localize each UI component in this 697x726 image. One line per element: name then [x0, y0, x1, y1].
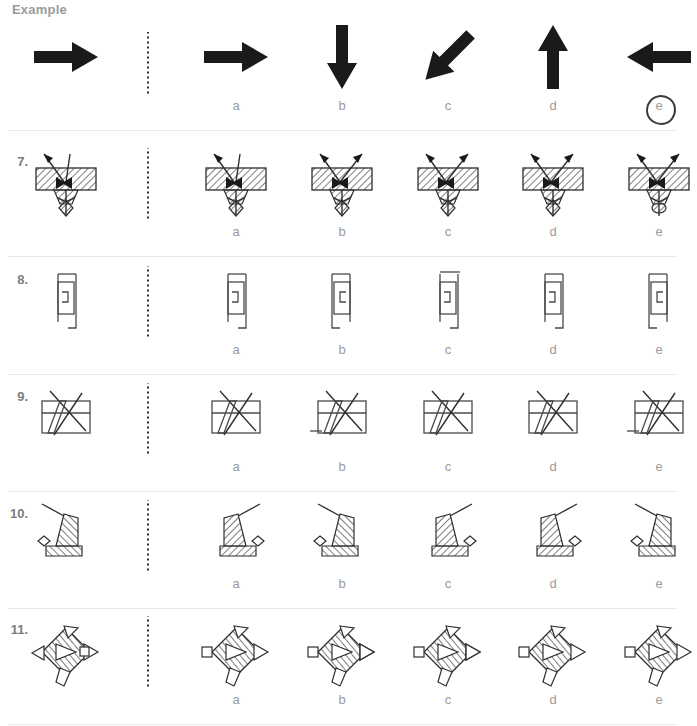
option-figure-d[interactable] — [507, 379, 599, 457]
column-divider — [147, 32, 149, 96]
prompt-figure — [20, 496, 112, 574]
prompt-figure — [20, 379, 112, 457]
option-label-d[interactable]: d — [533, 576, 573, 591]
question-row: 8.abcde — [0, 258, 685, 376]
option-figure-d[interactable] — [507, 496, 599, 574]
row-separator — [8, 130, 677, 131]
row-separator — [8, 724, 677, 725]
option-label-d[interactable]: d — [533, 98, 573, 113]
option-figure-b[interactable] — [296, 262, 388, 340]
option-figure-a[interactable] — [190, 612, 282, 690]
option-label-b[interactable]: b — [322, 692, 362, 707]
option-label-c[interactable]: c — [428, 692, 468, 707]
option-figure-c[interactable] — [402, 18, 494, 96]
option-label-c[interactable]: c — [428, 459, 468, 474]
question-row: 11.abcde — [0, 608, 685, 726]
option-label-d[interactable]: d — [533, 692, 573, 707]
option-label-e[interactable]: e — [639, 576, 679, 591]
option-figure-d[interactable] — [507, 612, 599, 690]
column-divider — [147, 148, 149, 220]
option-figure-c[interactable] — [402, 496, 494, 574]
option-figure-d[interactable] — [507, 262, 599, 340]
option-label-e[interactable]: e — [639, 98, 679, 113]
option-figure-e[interactable] — [613, 612, 697, 690]
prompt-figure — [20, 262, 112, 340]
question-row: 10.abcde — [0, 492, 685, 610]
option-figure-b[interactable] — [296, 144, 388, 222]
row-separator — [8, 256, 677, 257]
prompt-figure — [20, 612, 112, 690]
option-figure-b[interactable] — [296, 379, 388, 457]
option-label-a[interactable]: a — [216, 224, 256, 239]
column-divider — [147, 616, 149, 688]
option-label-a[interactable]: a — [216, 576, 256, 591]
option-figure-a[interactable] — [190, 379, 282, 457]
option-label-d[interactable]: d — [533, 224, 573, 239]
option-figure-e[interactable] — [613, 144, 697, 222]
option-figure-a[interactable] — [190, 496, 282, 574]
option-label-e[interactable]: e — [639, 342, 679, 357]
option-label-a[interactable]: a — [216, 692, 256, 707]
option-figure-e[interactable] — [613, 379, 697, 457]
column-divider — [147, 266, 149, 338]
option-figure-c[interactable] — [402, 144, 494, 222]
option-label-d[interactable]: d — [533, 342, 573, 357]
option-label-b[interactable]: b — [322, 98, 362, 113]
option-label-c[interactable]: c — [428, 342, 468, 357]
option-figure-a[interactable] — [190, 144, 282, 222]
option-label-e[interactable]: e — [639, 692, 679, 707]
option-label-b[interactable]: b — [322, 459, 362, 474]
option-label-a[interactable]: a — [216, 98, 256, 113]
option-figure-e[interactable] — [613, 496, 697, 574]
option-label-b[interactable]: b — [322, 576, 362, 591]
column-divider — [147, 383, 149, 455]
option-figure-b[interactable] — [296, 18, 388, 96]
option-label-e[interactable]: e — [639, 459, 679, 474]
option-label-c[interactable]: c — [428, 98, 468, 113]
option-label-d[interactable]: d — [533, 459, 573, 474]
option-label-c[interactable]: c — [428, 224, 468, 239]
option-figure-b[interactable] — [296, 612, 388, 690]
column-divider — [147, 500, 149, 572]
question-row: 9.abcde — [0, 375, 685, 493]
option-label-e[interactable]: e — [639, 224, 679, 239]
option-figure-a[interactable] — [190, 262, 282, 340]
option-label-a[interactable]: a — [216, 342, 256, 357]
option-figure-e[interactable] — [613, 18, 697, 96]
option-figure-e[interactable] — [613, 262, 697, 340]
option-label-c[interactable]: c — [428, 576, 468, 591]
option-figure-d[interactable] — [507, 144, 599, 222]
option-label-b[interactable]: b — [322, 342, 362, 357]
prompt-figure — [20, 144, 112, 222]
prompt-figure — [20, 18, 112, 96]
option-figure-c[interactable] — [402, 262, 494, 340]
option-figure-a[interactable] — [190, 18, 282, 96]
option-figure-d[interactable] — [507, 18, 599, 96]
option-label-a[interactable]: a — [216, 459, 256, 474]
option-label-b[interactable]: b — [322, 224, 362, 239]
option-figure-c[interactable] — [402, 379, 494, 457]
question-row: 7.abcde — [0, 140, 685, 258]
option-figure-b[interactable] — [296, 496, 388, 574]
option-figure-c[interactable] — [402, 612, 494, 690]
question-row: abcde — [0, 14, 685, 132]
